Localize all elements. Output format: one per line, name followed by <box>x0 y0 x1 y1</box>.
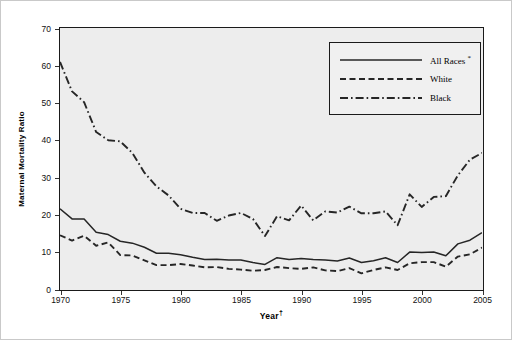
legend-label: Black <box>430 93 451 103</box>
x-tick-label: 2005 <box>460 295 506 305</box>
series-line-all-races <box>60 209 482 265</box>
x-tick-mark <box>483 291 484 295</box>
y-tick-mark <box>55 290 59 291</box>
legend-item[interactable]: White <box>330 69 480 88</box>
x-tick-mark <box>362 291 363 295</box>
x-tick-mark <box>302 291 303 295</box>
x-axis-title-marker: † <box>279 309 283 316</box>
x-tick-label: 1990 <box>279 295 325 305</box>
legend-label-text: All Races <box>430 56 468 66</box>
y-tick-label: 0 <box>11 285 51 295</box>
legend-item[interactable]: All Races * <box>330 50 480 69</box>
x-axis-title-text: Year <box>260 311 279 321</box>
y-tick-label: 20 <box>11 210 51 220</box>
maternal-mortality-figure: Maternal Mortality Ratio 010203040506070… <box>0 0 512 340</box>
x-tick-label: 1970 <box>38 295 84 305</box>
x-axis-title: Year† <box>59 309 484 321</box>
y-tick-label: 30 <box>11 173 51 183</box>
x-tick-label: 1985 <box>218 295 264 305</box>
x-tick-mark <box>422 291 423 295</box>
x-tick-label: 2000 <box>399 295 445 305</box>
legend-label-marker: * <box>468 54 472 62</box>
y-tick-label: 40 <box>11 135 51 145</box>
legend-line-swatch <box>339 93 423 103</box>
x-tick-mark <box>241 291 242 295</box>
x-tick-label: 1980 <box>158 295 204 305</box>
x-tick-label: 1995 <box>339 295 385 305</box>
y-tick-label: 10 <box>11 247 51 257</box>
legend: All Races *WhiteBlack <box>329 42 481 115</box>
legend-line-swatch <box>339 74 423 84</box>
x-tick-mark <box>121 291 122 295</box>
y-tick-label: 70 <box>11 24 51 34</box>
y-tick-mark <box>55 178 59 179</box>
y-tick-label: 50 <box>11 98 51 108</box>
legend-line-swatch <box>339 55 423 65</box>
x-tick-label: 1975 <box>98 295 144 305</box>
y-tick-mark <box>55 140 59 141</box>
legend-label: White <box>430 74 452 84</box>
y-tick-label: 60 <box>11 61 51 71</box>
y-tick-mark <box>55 215 59 216</box>
y-tick-mark <box>55 29 59 30</box>
y-tick-mark <box>55 252 59 253</box>
x-tick-mark <box>61 291 62 295</box>
y-tick-mark <box>55 103 59 104</box>
y-tick-mark <box>55 66 59 67</box>
legend-item[interactable]: Black <box>330 88 480 107</box>
legend-label: All Races * <box>430 54 471 66</box>
x-tick-mark <box>181 291 182 295</box>
